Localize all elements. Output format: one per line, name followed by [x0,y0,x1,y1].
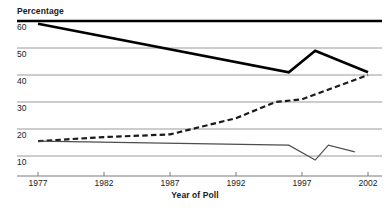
series-dashed-rising [38,75,368,141]
x-tick-label-1992: 1992 [216,178,256,188]
gridlines [17,21,382,156]
x-tick-label-1997: 1997 [282,178,322,188]
x-tick-label-1977: 1977 [18,178,58,188]
chart-plot-area [0,0,390,213]
y-tick-label-20: 20 [17,130,35,140]
x-axis [17,172,382,176]
x-axis-title: Year of Poll [0,190,390,200]
chart-container: Percentage 60 50 40 30 20 10 19 [0,0,390,213]
x-tick-label-2002: 2002 [348,178,388,188]
series-layer [38,24,368,160]
x-tick-label-1982: 1982 [84,178,124,188]
y-tick-label-60: 60 [17,22,35,32]
y-tick-label-10: 10 [17,157,35,167]
y-tick-label-40: 40 [17,76,35,86]
y-tick-label-50: 50 [17,49,35,59]
series-thin-flat [38,141,355,160]
x-tick-label-1987: 1987 [150,178,190,188]
y-tick-label-30: 30 [17,103,35,113]
